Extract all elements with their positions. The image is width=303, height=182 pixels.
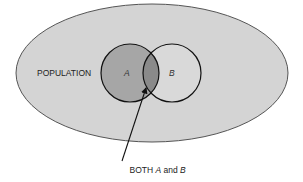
caption-middle: and [161, 165, 180, 175]
set-a-label: A [123, 68, 130, 78]
caption-set-b: B [180, 165, 186, 175]
population-label: POPULATION [37, 68, 91, 78]
venn-diagram: POPULATION A B BOTH A and B [0, 0, 303, 182]
set-b-label: B [169, 68, 175, 78]
intersection-caption: BOTH A and B [113, 165, 198, 175]
caption-prefix: BOTH [130, 165, 156, 175]
